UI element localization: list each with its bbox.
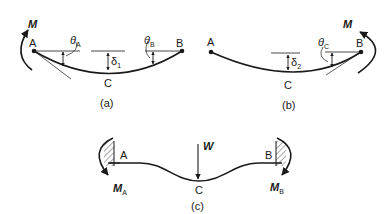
moment-arrow-a <box>21 30 32 70</box>
point-label-c-right: B <box>265 149 272 161</box>
deflection-label-delta1: δ1 <box>111 55 121 69</box>
beam-deflection-figure: M A B C θA θB δ1 (a) M A B <box>0 0 392 214</box>
deflection-label-delta2: δ2 <box>291 56 301 70</box>
point-label-a-left: A <box>29 37 37 49</box>
point-label-c-left: A <box>120 149 128 161</box>
panel-a: M A B C θA θB δ1 (a) <box>21 18 184 109</box>
moment-label-a: M <box>28 18 38 30</box>
point-label-b-left: A <box>207 36 215 48</box>
moment-label-b: M <box>343 18 353 30</box>
point-label-b-mid: C <box>284 79 292 91</box>
caption-a: (a) <box>100 97 113 109</box>
angle-label-theta-a: θA <box>70 34 81 48</box>
node-b-left <box>209 50 214 55</box>
panel-c: W A B C MA MB (c) <box>99 138 291 212</box>
tangent-line-b <box>326 52 361 75</box>
angle-label-theta-c: θC <box>318 36 329 50</box>
point-label-a-mid: C <box>104 77 112 89</box>
deflected-beam-b <box>211 52 361 72</box>
angle-label-theta-b: θB <box>144 34 155 48</box>
point-label-b-right: B <box>356 37 363 49</box>
panel-b: M A B C θC δ2 (b) <box>207 18 376 111</box>
moment-label-ma: MA <box>113 182 127 196</box>
caption-c: (c) <box>191 200 204 212</box>
point-label-a-right: B <box>176 37 183 49</box>
point-label-c-mid: C <box>195 184 203 196</box>
deflected-beam-c <box>108 163 282 181</box>
caption-b: (b) <box>282 99 295 111</box>
load-label-w: W <box>203 140 215 152</box>
moment-label-mb: MB <box>270 181 284 195</box>
